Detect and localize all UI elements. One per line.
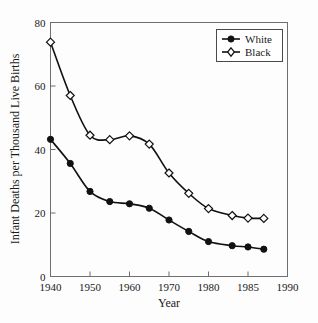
legend-label-black: Black xyxy=(245,46,271,58)
data-point-white xyxy=(87,188,93,194)
x-tick-label: 1950 xyxy=(79,281,102,293)
x-tick-label: 1960 xyxy=(119,281,142,293)
data-point-white xyxy=(205,238,211,244)
x-tick-label: 1940 xyxy=(40,281,63,293)
data-point-white xyxy=(146,205,152,211)
data-point-white xyxy=(186,228,192,234)
x-tick-label: 1970 xyxy=(158,281,181,293)
y-tick-label: 80 xyxy=(35,17,47,29)
y-tick-label: 20 xyxy=(35,207,47,219)
data-point-white xyxy=(47,136,53,142)
x-tick-label: 1985 xyxy=(237,281,260,293)
data-point-white xyxy=(67,160,73,166)
y-tick-label: 60 xyxy=(35,80,47,92)
data-point-white xyxy=(261,246,267,252)
x-tick-label: 1980 xyxy=(198,281,221,293)
legend[interactable]: White Black xyxy=(217,30,283,62)
data-point-white xyxy=(229,243,235,249)
y-axis-title: Infant Deaths per Thousand Live Births xyxy=(8,53,22,244)
infant-mortality-line-chart: 020406080 1940195019601970198019851990 W… xyxy=(0,0,318,323)
x-tick-label: 1990 xyxy=(277,281,300,293)
y-tick-label: 40 xyxy=(35,144,47,156)
legend-marker-white-icon xyxy=(228,36,234,42)
data-point-white xyxy=(245,244,251,250)
legend-label-white: White xyxy=(245,33,272,45)
data-point-white xyxy=(126,201,132,207)
data-point-white xyxy=(166,217,172,223)
chart-page: 020406080 1940195019601970198019851990 W… xyxy=(0,0,318,323)
x-axis-title: Year xyxy=(158,296,180,310)
data-point-white xyxy=(107,198,113,204)
